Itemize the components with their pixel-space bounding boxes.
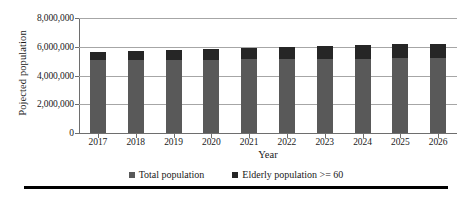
- x-axis-tick-label: 2017: [79, 137, 117, 148]
- bar-elderly-population: [430, 44, 446, 59]
- x-axis-tick-mark: [325, 134, 326, 138]
- bar-group: [355, 18, 371, 133]
- y-axis-tick-mark: [75, 133, 79, 134]
- y-axis-tick-mark: [75, 18, 79, 19]
- legend-swatch-icon: [232, 172, 238, 178]
- bar-group: [203, 18, 219, 133]
- bar-group: [317, 18, 333, 133]
- bar-group: [241, 18, 257, 133]
- plot-area: [79, 18, 457, 133]
- x-axis-title: Year: [79, 149, 457, 161]
- bar-elderly-population: [90, 52, 106, 61]
- bar-elderly-population: [317, 46, 333, 59]
- legend-item: Total population: [129, 169, 205, 181]
- y-axis-tick-mark: [75, 76, 79, 77]
- legend-swatch-icon: [129, 172, 135, 178]
- x-axis-tick-mark: [136, 134, 137, 138]
- x-axis-tick-label: 2024: [344, 137, 382, 148]
- bar-total-population: [203, 49, 219, 133]
- x-axis-tick-mark: [363, 134, 364, 138]
- bar-group: [392, 18, 408, 133]
- legend-item: Elderly population >= 60: [232, 169, 343, 181]
- x-axis-tick-labels: 2017201820192020202120222023202420252026: [79, 137, 457, 149]
- bar-total-population: [241, 48, 257, 133]
- x-axis-tick-mark: [211, 134, 212, 138]
- bar-total-population: [317, 46, 333, 133]
- x-axis-tick-mark: [438, 134, 439, 138]
- y-axis-tick-label: 4,000,000: [22, 71, 74, 81]
- bar-total-population: [128, 51, 144, 133]
- y-axis-tick-mark: [75, 47, 79, 48]
- bar-total-population: [90, 52, 106, 133]
- bar-elderly-population: [166, 50, 182, 60]
- bar-elderly-population: [355, 45, 371, 59]
- x-axis-tick-mark: [98, 134, 99, 138]
- y-axis-tick-label: 8,000,000: [22, 13, 74, 23]
- x-axis-tick-mark: [249, 134, 250, 138]
- chart-figure: Pojected population 02,000,0004,000,0006…: [0, 0, 472, 197]
- y-axis-tick-label: 6,000,000: [22, 42, 74, 52]
- x-axis-tick-mark: [400, 134, 401, 138]
- x-axis-tick-label: 2023: [306, 137, 344, 148]
- y-axis-tick-label: 0: [22, 128, 74, 138]
- x-axis-tick-label: 2022: [268, 137, 306, 148]
- x-axis-tick-label: 2019: [155, 137, 193, 148]
- x-axis-tick-label: 2025: [381, 137, 419, 148]
- x-axis-tick-label: 2021: [230, 137, 268, 148]
- legend-label: Elderly population >= 60: [242, 169, 343, 181]
- x-axis-tick-label: 2018: [117, 137, 155, 148]
- x-axis-tick-label: 2020: [192, 137, 230, 148]
- bar-elderly-population: [241, 48, 257, 60]
- bar-total-population: [166, 50, 182, 133]
- bottom-rule-divider: [24, 186, 448, 189]
- x-axis-tick-label: 2026: [419, 137, 457, 148]
- legend-label: Total population: [139, 169, 205, 181]
- bar-elderly-population: [279, 47, 295, 60]
- bar-elderly-population: [392, 44, 408, 58]
- x-axis-tick-mark: [174, 134, 175, 138]
- bar-total-population: [279, 47, 295, 133]
- bar-group: [90, 18, 106, 133]
- bar-group: [166, 18, 182, 133]
- x-axis-tick-mark: [287, 134, 288, 138]
- chart-legend: Total populationElderly population >= 60: [0, 168, 472, 182]
- bar-group: [128, 18, 144, 133]
- y-axis-tick-mark: [75, 104, 79, 105]
- bar-group: [279, 18, 295, 133]
- bar-elderly-population: [203, 49, 219, 60]
- bar-elderly-population: [128, 51, 144, 60]
- bar-group: [430, 18, 446, 133]
- y-axis-tick-label: 2,000,000: [22, 99, 74, 109]
